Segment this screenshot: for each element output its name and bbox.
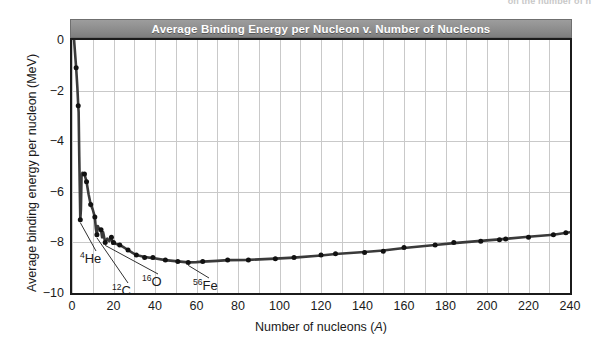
data-point-marker: [402, 245, 407, 250]
data-point-marker: [84, 179, 89, 184]
data-point-marker: [433, 242, 438, 247]
data-point-marker: [333, 251, 338, 256]
data-point-marker: [134, 253, 139, 258]
data-point-marker: [142, 255, 147, 260]
data-point-marker: [497, 237, 502, 242]
data-point-marker: [150, 255, 155, 260]
nuclide-label-fe56: 56Fe: [193, 279, 218, 292]
x-tick-label: 60: [190, 299, 204, 313]
x-tick-label: 40: [148, 299, 162, 313]
data-point-marker: [503, 237, 508, 242]
data-point-marker: [273, 256, 278, 261]
data-point-marker: [551, 232, 556, 237]
mass-number: 56: [193, 277, 202, 287]
data-point-marker: [478, 239, 483, 244]
x-tick-label: 0: [69, 299, 76, 313]
x-tick-label: 220: [518, 299, 539, 313]
x-tick-label: 100: [269, 299, 290, 313]
x-tick-label: 180: [435, 299, 456, 313]
x-tick-label: 200: [477, 299, 498, 313]
x-axis-ticks: 020406080100120140160180200220240: [70, 299, 572, 315]
data-point-marker: [200, 259, 205, 264]
binding-energy-figure: Average Binding Energy per Nucleon v. Nu…: [0, 0, 597, 350]
data-markers: [74, 65, 569, 265]
data-point-marker: [94, 232, 99, 237]
x-tick-label: 240: [560, 299, 581, 313]
data-point-marker: [225, 258, 230, 263]
data-point-marker: [117, 242, 122, 247]
data-point-marker: [186, 260, 191, 265]
x-tick-label: 20: [107, 299, 121, 313]
x-tick-label: 120: [311, 299, 332, 313]
data-point-marker: [451, 240, 456, 245]
mass-number: 4: [80, 250, 85, 260]
data-point-marker: [74, 65, 79, 70]
plot-area: [70, 38, 572, 295]
data-point-marker: [109, 235, 114, 240]
nuclide-label-he4: 4He: [80, 252, 101, 265]
y-axis-title: Average binding energy per nucleon (MeV): [25, 33, 39, 313]
chart-title-bar: Average Binding Energy per Nucleon v. Nu…: [70, 19, 572, 38]
plot-inner: [72, 40, 570, 293]
x-axis-title: Number of nucleons (A): [70, 320, 572, 334]
x-tick-label: 160: [394, 299, 415, 313]
data-point-marker: [99, 227, 104, 232]
curve-path: [74, 40, 570, 262]
data-point-marker: [175, 259, 180, 264]
data-point-marker: [163, 258, 168, 263]
data-point-marker: [111, 240, 116, 245]
x-tick-label: 80: [231, 299, 245, 313]
nuclide-label-o16: 16O: [142, 275, 162, 288]
data-point-marker: [103, 240, 108, 245]
mass-number: 12: [112, 282, 121, 292]
data-point-marker: [381, 249, 386, 254]
data-point-marker: [246, 258, 251, 263]
data-point-marker: [88, 202, 93, 207]
data-point-marker: [126, 247, 131, 252]
data-point-marker: [82, 172, 87, 177]
page-title: Average Binding Energy per Nucleon v. Nu…: [152, 23, 491, 35]
data-point-marker: [563, 230, 568, 235]
data-point-marker: [362, 250, 367, 255]
nuclide-label-c12: 12C: [112, 284, 131, 297]
data-curve-svg: [72, 40, 570, 293]
x-tick-label: 140: [352, 299, 373, 313]
data-point-marker: [526, 235, 531, 240]
data-point-marker: [92, 215, 97, 220]
data-point-marker: [292, 255, 297, 260]
data-point-marker: [78, 217, 83, 222]
x-axis-symbol: A: [375, 320, 383, 334]
mass-number: 16: [142, 273, 151, 283]
data-point-marker: [319, 253, 324, 258]
data-point-marker: [76, 103, 81, 108]
x-axis-title-text: Number of nucleons (A): [255, 320, 387, 334]
